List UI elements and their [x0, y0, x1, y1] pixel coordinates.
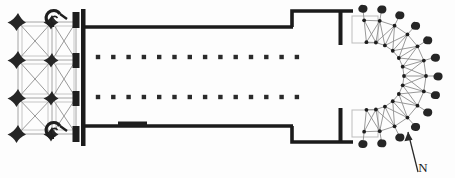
crossing-pier-north: [339, 11, 343, 45]
chevet-ambulatory-pier: [416, 104, 420, 108]
nave-arcade-pier: [249, 95, 253, 99]
chevet-rib: [364, 20, 380, 21]
nave-arcade-pier: [188, 55, 192, 59]
chevet-inner-pier: [374, 108, 378, 112]
north-arrow-label: N: [418, 160, 428, 175]
chevet-inner-pier: [365, 108, 369, 112]
chevet-inner-pier: [391, 99, 395, 103]
floor-plan-container: N: [0, 0, 455, 178]
chevet-ambulatory-pier: [378, 19, 382, 23]
chevet-inner-pier: [383, 105, 387, 109]
chevet-ambulatory-pier: [393, 24, 397, 28]
chevet-radiating-buttress: [358, 140, 367, 148]
chevet-radiating-buttress: [377, 139, 386, 147]
nave-arcade-pier: [126, 95, 130, 99]
chevet-radiating-buttress: [423, 108, 432, 116]
floor-plan-drawing: N: [0, 0, 455, 178]
nave-arcade-pier: [111, 95, 115, 99]
chevet-inner-pier: [374, 41, 378, 45]
nave-arcade-pier: [126, 55, 130, 59]
nave-arcade-pier: [142, 95, 146, 99]
chevet-inner-pier: [402, 74, 406, 78]
chevet-radiating-buttress: [433, 72, 442, 80]
chevet-radiating-buttress: [358, 5, 367, 13]
nave-arcade-pier: [172, 55, 176, 59]
nave-arcade-pier: [172, 95, 176, 99]
nave-arcade-pier: [279, 55, 283, 59]
chevet-radiating-buttress: [411, 22, 420, 30]
chevet-radiating-buttress: [423, 36, 432, 44]
chevet-inner-pier: [365, 40, 369, 44]
chevet-inner-pier: [397, 92, 401, 96]
nave-arcade-pier: [264, 55, 268, 59]
nave-arcade-pier: [249, 55, 253, 59]
chevet-rib: [364, 131, 380, 132]
chevet-ambulatory-pier: [406, 116, 410, 120]
nave-arcade-pier: [188, 95, 192, 99]
chevet-radiating-buttress: [411, 123, 420, 131]
chevet-radiating-buttress: [395, 134, 404, 142]
chevet-ambulatory-pier: [422, 90, 426, 94]
crossing-pier-south: [339, 108, 343, 142]
chevet-inner-pier: [383, 44, 387, 48]
nave-arcade-pier: [111, 55, 115, 59]
chevet-radiating-buttress: [377, 5, 386, 13]
chevet-ambulatory-pier: [416, 44, 420, 48]
chevet-ambulatory-pier: [378, 129, 382, 133]
chevet-ambulatory-pier: [406, 32, 410, 36]
chevet-inner-pier: [397, 56, 401, 60]
chevet-ambulatory-pier: [422, 59, 426, 63]
nave-arcade-pier: [295, 55, 299, 59]
nave-arcade-pier: [234, 95, 238, 99]
chevet-ambulatory-pier: [362, 130, 366, 134]
chevet-inner-pier: [401, 65, 405, 69]
nave-arcade-pier: [157, 55, 161, 59]
chevet-ambulatory-pier: [362, 18, 366, 22]
nave-arcade-pier: [203, 95, 207, 99]
nave-arcade-pier: [203, 55, 207, 59]
nave-arcade-pier: [142, 55, 146, 59]
nave-arcade-pier: [264, 95, 268, 99]
chevet-radiating-buttress: [395, 11, 404, 19]
chevet-radiating-buttress: [431, 91, 440, 99]
nave-arcade-pier: [96, 55, 100, 59]
nave-arcade-pier: [279, 95, 283, 99]
nave-arcade-pier: [157, 95, 161, 99]
nave-arcade-pier: [218, 95, 222, 99]
nave-arcade-pier: [96, 95, 100, 99]
nave-arcade-pier: [234, 55, 238, 59]
nave-arcade-pier: [218, 55, 222, 59]
chevet-ambulatory-pier: [393, 124, 397, 128]
nave-arcade-pier: [295, 95, 299, 99]
nave-south-portal: [118, 122, 147, 127]
chevet-ambulatory-pier: [424, 74, 428, 78]
chevet-inner-pier: [391, 49, 395, 53]
chevet-radiating-buttress: [431, 54, 440, 62]
chevet-inner-pier: [401, 83, 405, 87]
west-block-end-wall: [81, 9, 86, 146]
